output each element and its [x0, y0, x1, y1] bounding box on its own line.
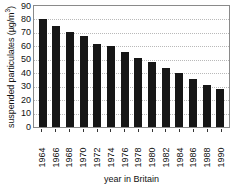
x-axis-tick: 1988: [203, 129, 211, 169]
bar-chart: suspended particulates (µg/m3) 908070605…: [0, 0, 235, 189]
x-axis-tick-mark: [221, 129, 222, 132]
x-axis-tick-label: 1984: [175, 147, 184, 167]
x-axis-tick-label: 1986: [189, 147, 198, 167]
x-axis-tick-mark: [179, 129, 180, 132]
x-axis-tick: 1980: [148, 129, 156, 169]
bar: [52, 26, 60, 127]
bar: [148, 62, 156, 127]
y-axis-tick-label: 0: [11, 123, 31, 132]
x-axis-tick-label: 1990: [217, 147, 226, 167]
x-axis-tick-label: 1970: [79, 147, 88, 167]
x-axis-tick-label: 1976: [120, 147, 129, 167]
x-axis-tick: 1984: [176, 129, 184, 169]
x-axis-tick-label: 1968: [65, 147, 74, 167]
x-axis-tick-mark: [124, 129, 125, 132]
x-axis-tick-mark: [41, 129, 42, 132]
bar: [203, 85, 211, 127]
bar: [39, 19, 47, 127]
x-axis-tick: 1974: [107, 129, 115, 169]
bars-container: [34, 6, 229, 127]
y-axis-tick-label: 80: [11, 15, 31, 24]
x-axis-tick-mark: [193, 129, 194, 132]
x-axis-tick-mark: [97, 129, 98, 132]
x-axis-tick-mark: [165, 129, 166, 132]
x-axis-tick-label: 1966: [51, 147, 60, 167]
x-axis-tick: 1976: [121, 129, 129, 169]
x-axis-tick-mark: [152, 129, 153, 132]
x-axis-tick: 1990: [217, 129, 225, 169]
bar: [216, 89, 224, 127]
x-axis-tick-label: 1974: [106, 147, 115, 167]
x-axis-tick: 1978: [134, 129, 142, 169]
y-axis-tick-label: 20: [11, 96, 31, 105]
x-axis-tick-mark: [110, 129, 111, 132]
x-axis-tick-label: 1978: [134, 147, 143, 167]
x-axis-tick: 1970: [79, 129, 87, 169]
x-axis-tick-mark: [69, 129, 70, 132]
y-axis-tick-labels: 9080706050403020100: [11, 5, 31, 128]
bar: [66, 32, 74, 127]
y-axis-tick-label: 40: [11, 69, 31, 78]
x-axis-tick-mark: [207, 129, 208, 132]
x-axis-tick-mark: [138, 129, 139, 132]
bar: [189, 79, 197, 127]
bar: [80, 36, 88, 127]
bar: [107, 46, 115, 127]
x-axis-tick-labels: 1964196619681970197219741976197819801982…: [33, 129, 230, 169]
x-axis-tick-label: 1980: [148, 147, 157, 167]
x-axis-tick: 1966: [52, 129, 60, 169]
x-axis-tick: 1968: [65, 129, 73, 169]
x-axis-tick-mark: [83, 129, 84, 132]
bar: [175, 73, 183, 127]
bar: [134, 58, 142, 127]
x-axis-tick: 1982: [162, 129, 170, 169]
y-axis-tick-label: 60: [11, 42, 31, 51]
plot-area: [33, 5, 230, 128]
bar: [162, 68, 170, 127]
x-axis-tick: 1972: [93, 129, 101, 169]
y-axis-tick-label: 50: [11, 55, 31, 64]
y-axis-tick-label: 70: [11, 28, 31, 37]
y-axis-tick-label: 30: [11, 82, 31, 91]
x-axis-tick: 1986: [189, 129, 197, 169]
y-axis-tick-label: 10: [11, 109, 31, 118]
bar: [93, 44, 101, 127]
y-axis-tick-label: 90: [11, 2, 31, 11]
bar: [121, 52, 129, 127]
x-axis-tick-label: 1982: [161, 147, 170, 167]
x-axis-tick-label: 1964: [37, 147, 46, 167]
y-axis-title-superscript: 3: [4, 9, 11, 13]
x-axis-title: year in Britain: [33, 174, 230, 184]
x-axis-tick-label: 1972: [93, 147, 102, 167]
x-axis-tick-label: 1988: [203, 147, 212, 167]
x-axis-tick: 1964: [38, 129, 46, 169]
x-axis-tick-mark: [55, 129, 56, 132]
